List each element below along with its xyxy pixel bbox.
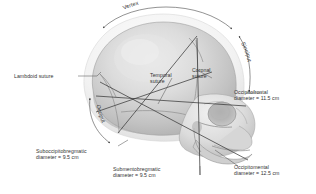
fetal-skull-diagram: Vertex Sinciput Occiput (0, 0, 316, 194)
